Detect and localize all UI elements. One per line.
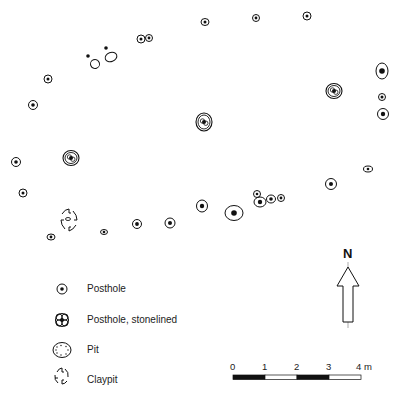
posthole-feature (47, 234, 55, 240)
posthole-stonelined-feature (326, 84, 342, 99)
north-label: N (343, 246, 352, 261)
legend-stonelined-icon (56, 314, 69, 327)
posthole-feature (253, 15, 260, 22)
scale-segment-2-3 (297, 375, 329, 380)
posthole-feature (267, 195, 276, 203)
posthole-feature (19, 189, 27, 197)
legend-claypit-icon (55, 368, 68, 384)
posthole-feature (133, 220, 142, 229)
posthole-feature (364, 166, 373, 172)
posthole-feature (376, 63, 388, 79)
claypit-feature (61, 209, 77, 231)
stakehole-feature (86, 54, 90, 58)
scale-segment-3-4 (329, 375, 361, 380)
posthole-feature (254, 197, 266, 207)
posthole-feature (137, 35, 145, 43)
site-plan (0, 0, 398, 401)
legend-posthole-icon (57, 284, 67, 294)
scale-bar (233, 375, 361, 380)
posthole-feature (378, 109, 389, 120)
legend-pit-icon (53, 343, 71, 358)
posthole-stonelined-feature (196, 113, 212, 131)
scale-tick-1: 1 (262, 361, 267, 372)
scale-tick-4: 4 m (356, 361, 372, 372)
posthole-feature (379, 94, 386, 101)
stakehole-feature (104, 46, 108, 50)
posthole-feature (254, 191, 261, 198)
posthole-feature (12, 158, 21, 167)
posthole-feature (278, 195, 285, 202)
posthole-feature (197, 200, 208, 212)
pit-empty-feature (89, 58, 101, 70)
posthole-feature (165, 218, 175, 228)
posthole-feature (201, 19, 209, 26)
posthole-feature (326, 179, 337, 190)
north-arrow (337, 262, 359, 328)
scale-tick-3: 3 (326, 361, 331, 372)
posthole-feature (303, 12, 311, 20)
scale-segment-1-2 (265, 375, 297, 380)
posthole-feature (225, 206, 243, 221)
pit-empty-feature (104, 51, 118, 64)
scale-tick-2: 2 (294, 361, 299, 372)
legend-label-posthole: Posthole (87, 283, 126, 294)
posthole-feature (29, 101, 38, 110)
legend-label-pit: Pit (87, 344, 99, 355)
legend (53, 284, 71, 384)
scale-tick-0: 0 (230, 361, 235, 372)
posthole-feature (146, 35, 153, 42)
posthole-feature (44, 75, 52, 83)
posthole-stonelined-feature (63, 151, 79, 166)
legend-label-stonelined: Posthole, stonelined (87, 314, 177, 325)
posthole-feature (101, 230, 108, 235)
legend-label-claypit: Claypit (87, 374, 118, 385)
scale-segment-0-1 (233, 375, 265, 380)
features-layer (12, 12, 389, 240)
